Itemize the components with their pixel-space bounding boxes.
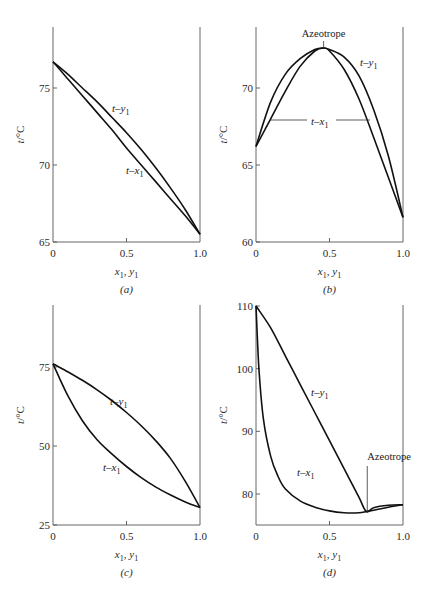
x-axis-title: x1, y1 <box>317 265 341 280</box>
panel-a: 65707500.51.0x1, y1t/°C(a)t–y1t–x1 <box>14 27 207 296</box>
axis-frame <box>256 27 403 242</box>
curve-label-t-x1: t–x1 <box>126 164 143 179</box>
x-tick-label: 0 <box>50 530 56 542</box>
y-tick-label: 50 <box>39 440 51 452</box>
x-tick-label: 1.0 <box>193 530 207 542</box>
x-tick-label: 0.5 <box>120 530 134 542</box>
curve-label-t-y1: t–y1 <box>110 395 127 410</box>
panel-label: (b) <box>323 283 336 296</box>
curve-label-t-x1: t–x1 <box>297 466 314 481</box>
panel-label: (c) <box>120 566 133 579</box>
y-tick-label: 110 <box>237 300 254 312</box>
x-tick-label: 0.5 <box>323 530 337 542</box>
x-axis-title: x1, y1 <box>114 548 138 563</box>
panel-b: 60657000.51.0x1, y1t/°C(b)t–y1t–x1Azeotr… <box>217 27 410 296</box>
axis-frame <box>256 305 403 525</box>
curve-label-t-y1: t–y1 <box>311 386 328 401</box>
y-tick-label: 100 <box>237 363 254 375</box>
vapor-curve-t-y1 <box>256 48 403 217</box>
x-tick-label: 0 <box>50 247 56 259</box>
x-axis-title: x1, y1 <box>317 548 341 563</box>
y-tick-label: 75 <box>39 361 51 373</box>
y-axis-title: t/°C <box>14 406 26 424</box>
x-axis-title: x1, y1 <box>114 265 138 280</box>
y-axis-title: t/°C <box>217 126 229 144</box>
y-axis-title: t/°C <box>217 406 229 424</box>
curve-label-t-x1: t–x1 <box>311 115 328 130</box>
y-tick-label: 65 <box>39 236 51 248</box>
azeotrope-annotation: Azeotrope <box>302 28 346 39</box>
x-tick-label: 1.0 <box>396 247 410 259</box>
curve-label-t-y1: t–y1 <box>112 102 129 117</box>
curve-label-t-x1: t–x1 <box>103 461 120 476</box>
x-tick-label: 0.5 <box>120 247 134 259</box>
panel-label: (a) <box>120 283 133 296</box>
axis-frame <box>53 27 200 242</box>
azeotrope-annotation: Azeotrope <box>367 451 411 462</box>
vapor-curve-t-y1 <box>53 364 200 508</box>
x-tick-label: 1.0 <box>193 247 207 259</box>
y-tick-label: 75 <box>39 82 51 94</box>
y-tick-label: 70 <box>242 82 254 94</box>
y-tick-label: 90 <box>242 425 254 437</box>
y-axis-title: t/°C <box>14 126 26 144</box>
x-tick-label: 1.0 <box>396 530 410 542</box>
y-tick-label: 25 <box>39 519 51 531</box>
vapor-curve-t-y1 <box>256 306 403 512</box>
y-tick-label: 80 <box>242 488 254 500</box>
liquid-curve-t-x1 <box>53 62 200 235</box>
liquid-curve-t-x1 <box>256 306 403 513</box>
panel-d: 809010011000.51.0x1, y1t/°C(d)t–y1t–x1Az… <box>217 300 411 579</box>
panel-label: (d) <box>323 566 336 579</box>
x-tick-label: 0 <box>253 530 259 542</box>
x-tick-label: 0.5 <box>323 247 337 259</box>
y-tick-label: 60 <box>242 236 254 248</box>
y-tick-label: 70 <box>39 159 51 171</box>
axis-frame <box>53 305 200 525</box>
figure-canvas: 65707500.51.0x1, y1t/°C(a)t–y1t–x1606570… <box>0 0 432 597</box>
y-tick-label: 65 <box>242 159 254 171</box>
liquid-curve-t-x1 <box>53 364 200 508</box>
curve-label-t-y1: t–y1 <box>360 56 377 71</box>
x-tick-label: 0 <box>253 247 259 259</box>
panel-c: 25507500.51.0x1, y1t/°C(c)t–y1t–x1 <box>14 305 207 579</box>
